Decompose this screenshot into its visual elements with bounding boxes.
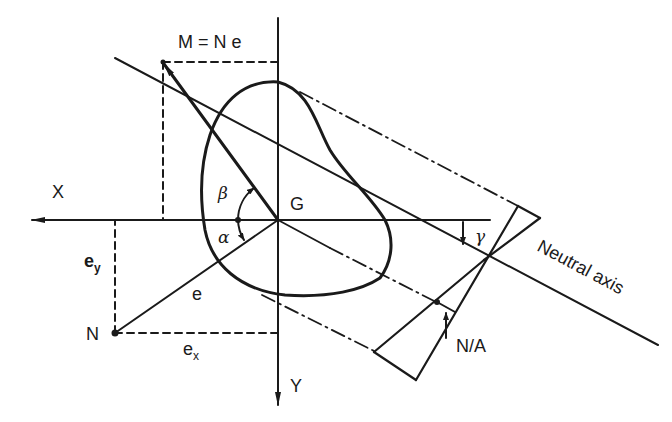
centroid-label: G <box>290 194 304 214</box>
eccentricity-line <box>115 220 278 333</box>
tangent-bottom-dashdot <box>262 295 376 352</box>
stress-bottom-edge <box>374 352 416 380</box>
stress-top-hyp <box>484 218 540 260</box>
alpha-label: α <box>218 227 230 247</box>
ey-label: ey <box>84 251 101 275</box>
gamma-label: γ <box>475 226 486 246</box>
force-point-label: N <box>86 324 99 344</box>
line-through-centroid <box>278 220 330 248</box>
ex-label: ex <box>183 339 199 363</box>
neutral-axis-label: Neutral axis <box>534 236 627 298</box>
moment-label: M = N e <box>178 32 242 52</box>
stress-label: N/A <box>456 336 486 356</box>
beta-label: β <box>217 183 228 203</box>
e-label: e <box>192 284 202 304</box>
y-axis-label: Y <box>290 376 302 396</box>
na-tick <box>437 302 455 312</box>
biaxial-bending-diagram: M = N e X Y G β α γ ey e ex N Neutral ax… <box>0 0 672 422</box>
alpha-arc <box>238 220 244 240</box>
centroid-projection-dashdot <box>330 248 438 303</box>
stress-top-edge <box>518 206 540 218</box>
x-axis-label: X <box>52 182 64 202</box>
beta-arc <box>238 188 254 220</box>
tangent-top-dashdot <box>300 92 518 206</box>
angle-vertex-dot <box>235 217 241 223</box>
